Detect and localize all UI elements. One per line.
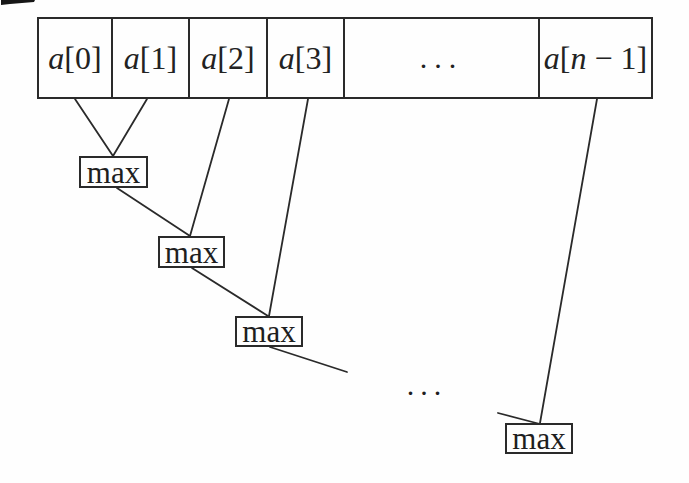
- edge-a2-max2: [190, 99, 229, 236]
- array-cell-label: a[1]: [124, 40, 177, 77]
- edge-a0-max1: [75, 99, 113, 156]
- chain-ellipsis-label: ...: [407, 372, 448, 398]
- max-node-label: max: [242, 316, 295, 347]
- array-ellipsis-label: ...: [420, 41, 464, 75]
- array-cell-ellipsis: ...: [345, 19, 540, 97]
- max-node-1: max: [79, 156, 148, 188]
- max-node-label: max: [512, 423, 565, 454]
- max-node-label: max: [87, 157, 140, 188]
- edge-max1-max2: [117, 188, 190, 236]
- array-cell-n-minus-1: a[n − 1]: [540, 19, 651, 97]
- array: a[0] a[1] a[2] a[3] ... a[n − 1]: [37, 17, 653, 99]
- max-node-3: max: [235, 316, 303, 347]
- max-node-4: max: [505, 423, 573, 454]
- diagram-canvas: a[0] a[1] a[2] a[3] ... a[n − 1] max max…: [0, 0, 689, 483]
- array-cell-1: a[1]: [113, 19, 190, 97]
- array-cell-3: a[3]: [268, 19, 345, 97]
- edge-a1-max1: [113, 99, 147, 156]
- edge-max3-continuation: [270, 347, 347, 372]
- array-cell-2: a[2]: [190, 19, 268, 97]
- chain-ellipsis: ...: [400, 368, 454, 398]
- array-cell-0: a[0]: [39, 19, 113, 97]
- array-cell-label: a[2]: [201, 40, 254, 77]
- array-cell-label: a[n − 1]: [544, 40, 647, 77]
- edge-an1-max4: [540, 99, 597, 423]
- scan-artifact: [1, 0, 35, 5]
- array-cell-label: a[3]: [279, 40, 332, 77]
- max-node-label: max: [165, 237, 218, 268]
- array-cell-label: a[0]: [48, 40, 101, 77]
- max-node-2: max: [158, 236, 225, 268]
- edge-max2-max3: [192, 268, 268, 316]
- edge-a3-max3: [269, 99, 308, 316]
